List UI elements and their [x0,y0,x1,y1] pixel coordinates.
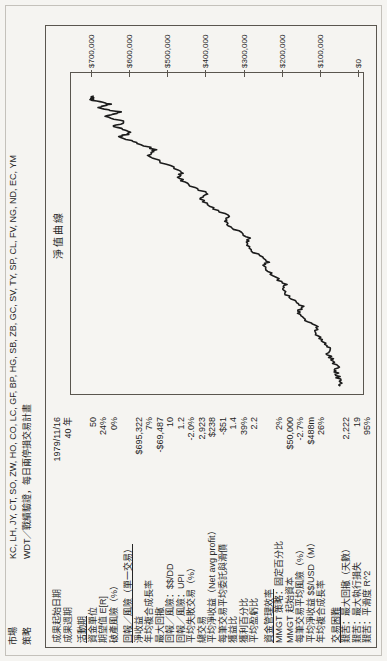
equity-curve-plot [70,72,364,395]
y-axis-tick-label: $300,000 [240,35,249,68]
stat-value: 1.4 [228,417,239,495]
stat-value: 0% [109,417,120,495]
stat-value: -$51 [218,417,229,495]
stat-label: MMGT 起始資本 [285,495,296,643]
stats-section: 資金管理效率MMGT 策略：固定百分比2%MMGT 起始資本$50,000每筆交… [264,417,327,643]
stat-value: 2.2 [249,417,260,495]
y-axis-tick-label: $400,000 [201,35,210,68]
stat-value: 2,222 [341,417,352,495]
stat-row: 資金單位50 [88,417,99,643]
stat-label: 淨收益 [134,495,145,643]
stat-row: 獲利百分比39% [239,417,250,643]
y-axis-tick [91,70,92,77]
stat-label: 成果週期 [63,495,74,643]
stat-label: 平均淨收益 $$/USD（M） [306,495,317,643]
stat-label: 破產風險（%） [109,495,120,643]
stat-value: 1.2 [176,417,187,495]
stat-value: $238 [207,417,218,495]
stat-row: 最大回撤-$69,487 [155,417,166,643]
y-axis-tick-label: $500,000 [163,35,172,68]
y-axis-tick-label: $700,000 [87,35,96,68]
y-axis-tick-label: $0 [354,59,363,68]
performance-stats-table: 成果起始日期1979/11/16成果週期40 年活動期資金單位50期望值 E[R… [52,417,373,643]
stat-value: -2.7% [295,417,306,495]
stat-row: 艱苦：平滑度 R^295% [362,417,373,643]
report-box: 成果起始日期1979/11/16成果週期40 年活動期資金單位50期望值 E[R… [45,25,377,648]
stat-row: MMGT 策略：固定百分比2% [274,417,285,643]
stat-row: 回報／風險：$$/DD10 [165,417,176,643]
stat-label: MMGT 策略：固定百分比 [274,495,285,643]
equity-curve-svg [71,73,363,394]
stat-value: 24% [98,417,109,495]
y-axis-tick-label: $200,000 [278,35,287,68]
section-title: 資金管理效率 [264,417,275,643]
y-axis-tick [244,70,245,77]
y-axis-tick [205,70,206,77]
header-strategy-row: 策略WDT／戰績驗證，每日兩停損交易計畫 [22,404,33,646]
stat-row: 期望值 E[R]24% [98,417,109,643]
stat-value: 1979/11/16 [52,417,63,495]
stats-section: 活動期資金單位50期望值 E[R]24%破產風險（%）0% [77,417,119,643]
scanned-report-screenshot: 市場KC, LH, JY, CT, SO, ZW, HO, CO, LC, GF… [0,0,387,661]
stat-value: $50,000 [285,417,296,495]
stat-value: 2,923 [197,417,208,495]
stat-row: 破產風險（%）0% [109,417,120,643]
stat-row: 艱苦：最大執行損失19 [352,417,363,643]
stat-value: 40 年 [63,417,74,495]
stat-row: 回報／風險：UPI1.2 [176,417,187,643]
stat-value: -$69,487 [155,417,166,495]
stat-label: 期望值 E[R] [98,495,109,643]
stats-section: 成果起始日期1979/11/16成果週期40 年 [52,417,73,643]
stat-label: 回報／風險：UPI [176,495,187,643]
stat-row: 平均淨收益 $$/USD（M）$488m [306,417,317,643]
stat-label: 艱苦：最大回撤（天數） [341,495,352,643]
stat-label: 獲利百分比 [239,495,250,643]
stat-row: 年均複合成長率26% [316,417,327,643]
section-title: 交易困難 [331,417,342,643]
y-axis-tick [167,70,168,77]
y-axis-tick-label: $100,000 [316,35,325,68]
stat-row: 成果週期40 年 [63,417,74,643]
stat-value: 7% [144,417,155,495]
report-page: 市場KC, LH, JY, CT, SO, ZW, HO, CO, LC, GF… [0,0,387,661]
stat-label: 艱苦：平滑度 R^2 [362,495,373,643]
stat-row: 平均淨收益（Net avg profit）$238 [207,417,218,643]
stat-row: 艱苦：最大回撤（天數）2,222 [341,417,352,643]
stats-section: 交易困難艱苦：最大回撤（天數）2,222艱苦：最大執行損失19艱苦：平滑度 R^… [331,417,373,643]
stat-row: 獲益比1.4 [228,417,239,643]
market-list: KC, LH, JY, CT, SO, ZW, HO, CO, LC, GF, … [8,155,18,559]
stat-label: 最大回撤 [155,495,166,643]
stat-row: 成果起始日期1979/11/16 [52,417,63,643]
stat-value: $488m [306,417,317,495]
stat-label: 獲益比 [228,495,239,643]
stat-row: 年均複合成長率7% [144,417,155,643]
stat-label: 總交易 [197,495,208,643]
stat-label: 年均複合成長率 [316,495,327,643]
stat-label: 艱苦：最大執行損失 [352,495,363,643]
stat-row: 每筆交易平均委託與滑價-$51 [218,417,229,643]
market-label: 市場 [8,559,19,645]
stat-row: 平均失敗交易（%）-2.0% [186,417,197,643]
y-axis-tick-label: $600,000 [125,35,134,68]
strategy-description: WDT／戰績驗證，每日兩停損交易計畫 [22,404,32,560]
equity-curve-line [90,96,342,386]
stats-section: 回報／風險（單一交易）淨收益$695,322年均複合成長率7%最大回撤-$69,… [123,417,260,643]
stat-row: MMGT 起始資本$50,000 [285,417,296,643]
strategy-label: 策略 [22,559,33,645]
stat-row: 每筆交易平均風險（%）-2.7% [295,417,306,643]
stat-row: 總交易2,923 [197,417,208,643]
stat-label: 每筆交易平均風險（%） [295,495,306,643]
stat-label: 年均複合成長率 [144,495,155,643]
stat-value: 2% [274,417,285,495]
stat-label: 平均盈虧比 [249,495,260,643]
stat-label: 每筆交易平均委託與滑價 [218,495,229,643]
stat-value: -2.0% [186,417,197,495]
stat-label: 平均淨收益（Net avg profit） [207,495,218,643]
y-axis-tick [282,70,283,77]
stat-label: 平均失敗交易（%） [186,495,197,643]
stat-value: 26% [316,417,327,495]
stat-label: 成果起始日期 [52,495,63,643]
y-axis-tick [320,70,321,77]
y-axis-tick [129,70,130,77]
y-axis-tick [358,70,359,77]
